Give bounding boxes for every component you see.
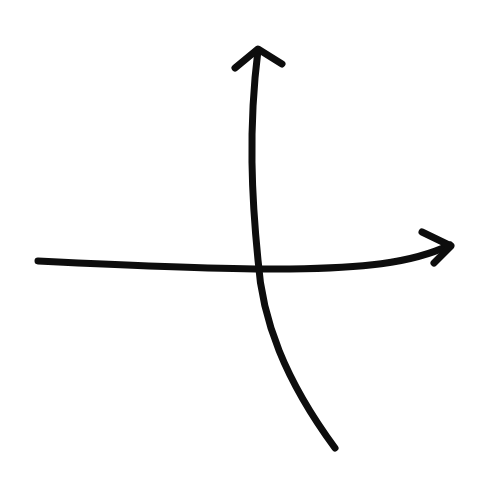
- vertical-axis-line: [252, 50, 335, 448]
- horizontal-axis-line: [38, 245, 450, 269]
- vertical-axis-arrow: [235, 49, 335, 448]
- axes-diagram: [0, 0, 487, 494]
- horizontal-axis-arrow: [38, 232, 451, 269]
